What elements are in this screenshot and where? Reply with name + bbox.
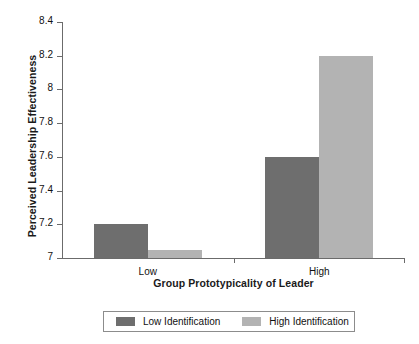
y-tick-label-2: 7.4	[39, 184, 53, 195]
y-tick-label-3: 7.6	[39, 150, 53, 161]
x-tick-separator-1	[234, 258, 235, 263]
y-tick-label-7: 8.4	[39, 15, 53, 26]
x-axis-title: Group Prototypicality of Leader	[62, 277, 405, 289]
legend-label-high-identification: High Identification	[269, 316, 349, 327]
bar-low-low-identification	[94, 224, 148, 258]
y-axis-line	[62, 22, 63, 259]
y-tick-label-1: 7.2	[39, 217, 53, 228]
y-tick-7: 8.4	[57, 22, 62, 23]
y-axis-title: Perceived Leadership Effectiveness	[26, 26, 38, 266]
y-tick-5: 8	[57, 89, 62, 90]
x-tick-label-high: High	[309, 266, 330, 277]
bar-high-high-identification	[319, 56, 373, 258]
y-tick-4: 7.8	[57, 123, 62, 124]
y-tick-0: 7	[57, 258, 62, 259]
plot-area: 77.27.47.67.888.28.4 LowHigh	[62, 22, 405, 258]
legend-item-low-identification: Low Identification	[116, 312, 220, 331]
chart-legend: Low Identification High Identification	[103, 311, 355, 332]
y-tick-label-4: 7.8	[39, 116, 53, 127]
legend-label-low-identification: Low Identification	[143, 316, 220, 327]
legend-item-high-identification: High Identification	[242, 312, 349, 331]
x-tick-label-low: Low	[139, 266, 157, 277]
legend-swatch-high-identification	[242, 317, 261, 326]
x-tick-end	[404, 258, 405, 263]
bar-low-high-identification	[148, 250, 202, 258]
y-tick-2: 7.4	[57, 191, 62, 192]
y-tick-label-0: 7	[47, 251, 53, 262]
y-tick-label-5: 8	[47, 82, 53, 93]
y-tick-label-6: 8.2	[39, 49, 53, 60]
y-tick-3: 7.6	[57, 157, 62, 158]
y-tick-6: 8.2	[57, 56, 62, 57]
bar-high-low-identification	[265, 157, 319, 258]
bar-chart-figure: Perceived Leadership Effectiveness 77.27…	[0, 0, 419, 344]
y-tick-1: 7.2	[57, 224, 62, 225]
legend-swatch-low-identification	[116, 317, 135, 326]
